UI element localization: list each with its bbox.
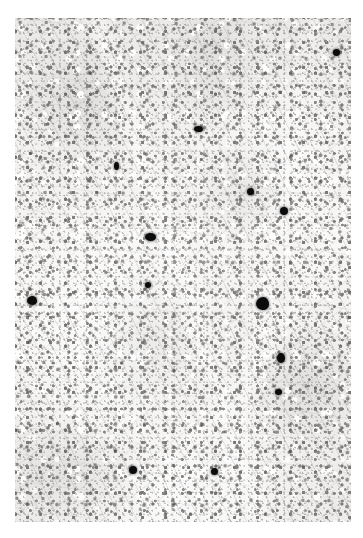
nuclei-layer-secondary: [15, 18, 351, 522]
dark-focus: [277, 353, 285, 363]
dark-focus: [280, 207, 288, 215]
dark-focus: [27, 296, 37, 305]
dark-focus: [247, 188, 254, 195]
illumination-falloff: [15, 18, 351, 522]
micrograph-plate: [15, 18, 351, 522]
dark-focus: [129, 466, 137, 474]
stain-mottling-layer: [15, 18, 351, 522]
dark-focus: [275, 389, 282, 395]
dark-focus: [333, 49, 340, 56]
dark-focus: [256, 297, 269, 310]
nuclei-layer-primary: [15, 18, 351, 522]
tissue-field: [15, 18, 351, 522]
dark-focus: [145, 233, 156, 241]
dark-focus: [145, 282, 151, 288]
micrograph-figure: [0, 0, 363, 538]
dark-focus: [194, 126, 203, 132]
cytoplasm-grain-layer: [15, 18, 351, 522]
dark-focus: [211, 468, 218, 475]
vacuole-layer: [15, 18, 351, 522]
fibrous-septa-layer: [15, 18, 351, 522]
stromal-strands-layer: [15, 18, 351, 522]
